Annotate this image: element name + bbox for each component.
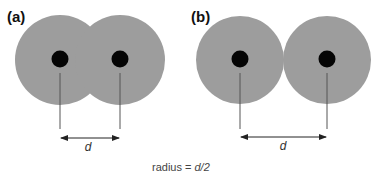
panel-b-label: (b) bbox=[191, 8, 210, 25]
distance-label: d bbox=[85, 140, 92, 154]
panel-a: (a) d bbox=[7, 8, 165, 154]
nucleus-right bbox=[319, 51, 336, 68]
nucleus-right bbox=[112, 51, 129, 68]
radius-caption-value: d/2 bbox=[195, 161, 210, 172]
distance-label: d bbox=[280, 139, 287, 153]
radius-caption: radius = d/2 bbox=[152, 161, 210, 172]
atomic-radius-diagram: (a) d (b) d radius = d/2 bbox=[0, 0, 382, 172]
nucleus-left bbox=[232, 51, 249, 68]
nucleus-left bbox=[52, 51, 69, 68]
radius-caption-prefix: radius = bbox=[152, 161, 195, 172]
panel-a-label: (a) bbox=[7, 8, 25, 25]
panel-b: (b) d bbox=[191, 8, 371, 153]
